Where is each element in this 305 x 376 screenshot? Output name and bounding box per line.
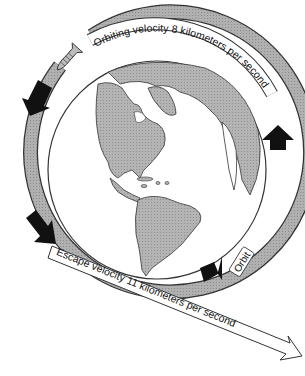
orbit-diagram: Orbiting velocity 8 kilometers per secon…: [0, 0, 305, 376]
earth: [48, 61, 266, 279]
direction-arrow-right: [262, 125, 294, 150]
